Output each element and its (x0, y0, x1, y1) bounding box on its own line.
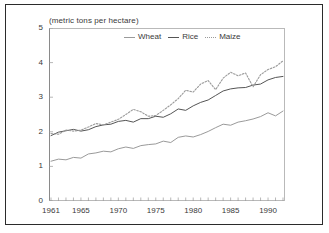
chart-page: (metric tons per hectare) 012345 1961196… (0, 0, 329, 233)
chart-legend: Wheat Rice Maize (124, 33, 240, 41)
legend-label-maize: Maize (219, 33, 240, 41)
x-axis-label: 1990 (259, 206, 277, 215)
legend-label-wheat: Wheat (138, 33, 161, 41)
x-axis-label: 1980 (184, 206, 202, 215)
y-axis-label: 2 (25, 127, 43, 136)
y-axis-label: 3 (25, 92, 43, 101)
x-axis-label: 1961 (42, 206, 60, 215)
figure: (metric tons per hectare) 012345 1961196… (0, 0, 329, 233)
series-line-maize (51, 61, 283, 134)
series-line-wheat (51, 111, 283, 161)
series-line-rice (51, 76, 283, 135)
legend-line-maize-icon (205, 37, 216, 38)
y-axis-label: 4 (25, 58, 43, 67)
x-axis-label: 1985 (222, 206, 240, 215)
x-axis-label: 1965 (72, 206, 90, 215)
unit-title: (metric tons per hectare) (49, 16, 139, 25)
legend-line-rice-icon (168, 37, 179, 38)
x-axis-label: 1975 (147, 206, 165, 215)
legend-label-rice: Rice (182, 33, 198, 41)
x-axis-label: 1970 (109, 206, 127, 215)
legend-item-rice: Rice (168, 33, 198, 41)
y-axis-label: 0 (25, 196, 43, 205)
legend-line-wheat-icon (124, 37, 135, 38)
y-axis-label: 5 (25, 23, 43, 32)
legend-item-wheat: Wheat (124, 33, 161, 41)
plot-area (49, 28, 285, 201)
legend-item-maize: Maize (205, 33, 240, 41)
y-axis-label: 1 (25, 161, 43, 170)
